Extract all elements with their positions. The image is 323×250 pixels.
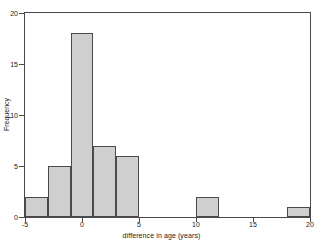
histogram-bars	[25, 13, 310, 217]
histogram-bar	[48, 166, 71, 217]
y-tick-mark	[19, 64, 24, 65]
y-tick-label: 20	[0, 10, 18, 17]
histogram-bar	[196, 197, 219, 217]
x-axis-label: difference in age (years)	[0, 232, 323, 239]
x-tick-label: 20	[306, 221, 314, 228]
x-tick-label: 5	[137, 221, 141, 228]
x-tick-label: 10	[192, 221, 200, 228]
x-tick-label: 15	[249, 221, 257, 228]
histogram-bar	[25, 197, 48, 217]
histogram-figure: 05101520 -505101520 Frequency difference…	[0, 0, 323, 250]
histogram-bar	[287, 207, 310, 217]
histogram-bar	[93, 146, 116, 217]
y-tick-mark	[19, 166, 24, 167]
y-axis-label: Frequency	[3, 80, 10, 150]
histogram-bar	[71, 33, 94, 217]
y-tick-label: 5	[0, 163, 18, 170]
y-tick-label: 0	[0, 214, 18, 221]
y-axis-label-wrapper: Frequency	[0, 80, 12, 150]
histogram-bar	[116, 156, 139, 217]
y-tick-label: 15	[0, 61, 18, 68]
x-tick-label: -5	[22, 221, 28, 228]
y-tick-mark	[19, 13, 24, 14]
y-tick-mark	[19, 115, 24, 116]
x-tick-label: 0	[80, 221, 84, 228]
y-tick-mark	[19, 217, 24, 218]
